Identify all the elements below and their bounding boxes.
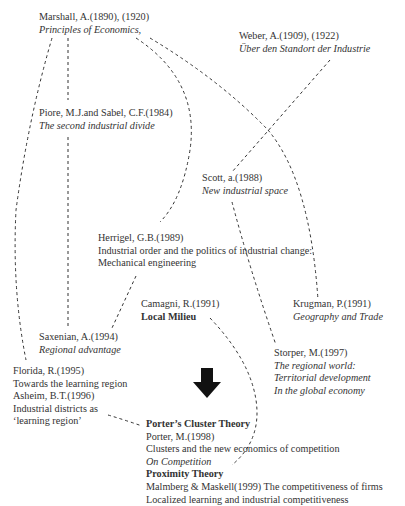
weber-author: Weber, A.(1909), (1922) [239, 30, 370, 43]
node-porter-proximity: Porter’s Cluster Theory Porter, M.(1998)… [146, 418, 383, 506]
storper-title-line3: In the global economy [274, 385, 371, 398]
edge-scott-storper [232, 202, 276, 345]
porter-book: On Competition [146, 456, 383, 469]
node-florida-asheim: Florida, R.(1995) Towards the learning r… [13, 365, 127, 428]
weber-title: Über den Standort der Industrie [239, 43, 370, 56]
node-piore: Piore, M.J.and Sabel, C.F.(1984) The sec… [39, 107, 173, 132]
piore-author: Piore, M.J.and Sabel, C.F.(1984) [39, 107, 173, 120]
storper-title-line1: The regional world: [274, 360, 371, 373]
node-weber: Weber, A.(1909), (1922) Über den Standor… [239, 30, 370, 55]
herrigel-author: Herrigel, G.B.(1989) [98, 232, 312, 245]
down-arrow-icon [193, 368, 221, 398]
porter-title: Clusters and the new economics of compet… [146, 443, 383, 456]
storper-title-line2: Territorial development [274, 372, 371, 385]
node-marshall: Marshall, A.(1890), (1920) Principles of… [39, 11, 149, 36]
storper-author: Storper, M.(1997) [274, 347, 371, 360]
edge-marshall-florida [15, 38, 52, 360]
node-storper: Storper, M.(1997) The regional world: Te… [274, 347, 371, 397]
piore-title: The second industrial divide [39, 120, 173, 133]
herrigel-title-line2: Mechanical engineering [98, 257, 312, 270]
asheim-author: Asheim, B.T.(1996) [13, 390, 127, 403]
camagni-author: Camagni, R.(1991) [141, 298, 219, 311]
florida-author: Florida, R.(1995) [13, 365, 127, 378]
camagni-title: Local Milieu [141, 311, 219, 324]
porter-heading: Porter’s Cluster Theory [146, 418, 383, 431]
node-herrigel: Herrigel, G.B.(1989) Industrial order an… [98, 232, 312, 270]
florida-title: Towards the learning region [13, 378, 127, 391]
malmberg-citation: Malmberg & Maskell(1999) The competitive… [146, 481, 383, 494]
node-saxenian: Saxenian, A.(1994) Regional advantage [39, 331, 121, 356]
node-krugman: Krugman, P.(1991) Geography and Trade [293, 298, 383, 323]
edge-weber-scott [232, 60, 330, 172]
herrigel-title-line1: Industrial order and the politics of ind… [98, 245, 312, 258]
krugman-author: Krugman, P.(1991) [293, 298, 383, 311]
asheim-title-line2: ‘learning region’ [13, 415, 127, 428]
edge-herrigel-saxenian [112, 276, 136, 328]
asheim-title-line1: Industrial districts as [13, 403, 127, 416]
krugman-title: Geography and Trade [293, 311, 383, 324]
scott-title: New industrial space [202, 185, 288, 198]
porter-author: Porter, M.(1998) [146, 431, 383, 444]
marshall-author: Marshall, A.(1890), (1920) [39, 11, 149, 24]
node-camagni: Camagni, R.(1991) Local Milieu [141, 298, 219, 323]
localized-learning-title: Localized learning and industrial compet… [146, 494, 383, 506]
marshall-title: Principles of Economics, [39, 24, 149, 37]
scott-author: Scott, a.(1988) [202, 172, 288, 185]
saxenian-title: Regional advantage [39, 344, 121, 357]
proximity-heading: Proximity Theory [146, 468, 383, 481]
node-scott: Scott, a.(1988) New industrial space [202, 172, 288, 197]
saxenian-author: Saxenian, A.(1994) [39, 331, 121, 344]
